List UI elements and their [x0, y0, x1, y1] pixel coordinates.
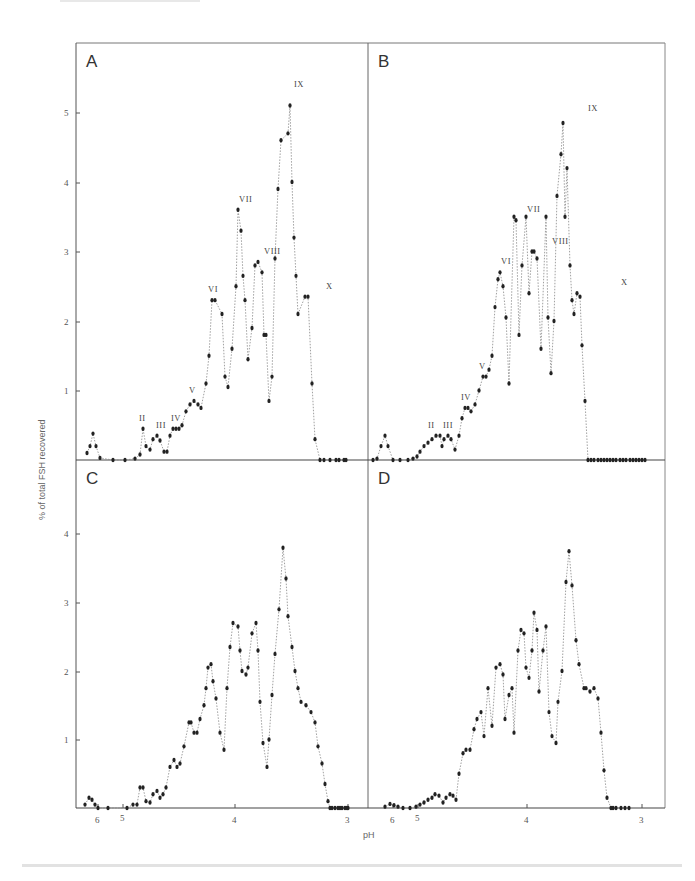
data-point	[507, 381, 510, 385]
peak-label: X	[621, 277, 628, 287]
peak-label: VIII	[264, 246, 281, 256]
data-point	[498, 270, 501, 274]
data-point	[514, 218, 517, 222]
caption-remnant	[22, 864, 682, 867]
data-point	[422, 444, 425, 448]
data-point	[430, 796, 433, 800]
series-panel-a	[85, 103, 347, 462]
data-point	[168, 433, 171, 437]
x-axis: 6 5 4 3 6 5 4 3	[95, 804, 644, 825]
data-point	[244, 672, 247, 676]
peak-label: IV	[171, 413, 181, 423]
data-point	[434, 433, 437, 437]
data-point	[392, 803, 395, 807]
data-point	[220, 312, 223, 316]
data-point	[383, 804, 386, 808]
data-point	[91, 431, 94, 435]
data-point	[340, 806, 343, 810]
data-point	[371, 458, 374, 462]
data-point	[131, 802, 134, 806]
data-point	[204, 381, 207, 385]
data-point	[564, 580, 567, 584]
data-point	[490, 354, 493, 358]
panel-label-b: B	[378, 52, 389, 71]
data-point	[449, 437, 452, 441]
data-point	[238, 648, 241, 652]
x-tick-6: 6	[390, 815, 395, 825]
data-point	[313, 720, 316, 724]
data-point	[328, 458, 331, 462]
data-point	[292, 235, 295, 239]
data-point	[510, 686, 513, 690]
data-point	[276, 187, 279, 191]
data-point	[544, 624, 547, 628]
data-point	[85, 451, 88, 455]
panel-label-a: A	[86, 52, 98, 71]
data-point	[151, 437, 154, 441]
data-point	[310, 381, 313, 385]
data-point	[559, 152, 562, 156]
data-point	[182, 744, 185, 748]
data-point	[640, 458, 643, 462]
data-point	[481, 374, 484, 378]
data-point	[418, 802, 421, 806]
data-point	[293, 669, 296, 673]
data-point	[192, 399, 195, 403]
peak-label: V	[189, 385, 196, 395]
data-point	[527, 676, 530, 680]
data-point	[264, 333, 267, 337]
data-point	[637, 458, 640, 462]
data-point	[605, 458, 608, 462]
data-point	[532, 249, 535, 253]
data-point	[209, 662, 212, 666]
data-point	[239, 228, 242, 232]
data-point	[592, 686, 595, 690]
data-point	[486, 686, 489, 690]
data-point	[172, 758, 175, 762]
peak-label: III	[156, 420, 166, 430]
data-point	[334, 458, 337, 462]
data-point	[180, 423, 183, 427]
data-point	[461, 751, 464, 755]
data-point	[599, 730, 602, 734]
data-point	[631, 458, 634, 462]
data-point	[493, 305, 496, 309]
y-tick-3: 3	[64, 598, 69, 608]
data-point	[379, 444, 382, 448]
data-point	[589, 458, 592, 462]
data-point	[318, 458, 321, 462]
data-point	[588, 689, 591, 693]
peak-label: IV	[461, 392, 471, 402]
data-point	[572, 312, 575, 316]
data-point	[541, 648, 544, 652]
data-point	[532, 611, 535, 615]
data-point	[144, 444, 147, 448]
data-point	[460, 416, 463, 420]
data-point	[575, 291, 578, 295]
data-point	[468, 748, 471, 752]
data-point	[214, 696, 217, 700]
data-point	[313, 437, 316, 441]
data-point	[539, 347, 542, 351]
data-point	[236, 208, 239, 212]
data-point	[196, 402, 199, 406]
data-point	[106, 806, 109, 810]
data-point	[286, 614, 289, 618]
data-point	[98, 456, 101, 460]
data-point	[475, 717, 478, 721]
y-tick-5: 5	[64, 108, 69, 118]
data-point	[530, 648, 533, 652]
data-point	[623, 806, 626, 810]
data-point	[346, 806, 349, 810]
data-point	[241, 274, 244, 278]
peak-label: II	[428, 420, 435, 430]
data-point	[96, 806, 99, 810]
data-point	[211, 679, 214, 683]
data-point	[442, 437, 445, 441]
data-point	[309, 710, 312, 714]
data-point	[524, 665, 527, 669]
data-point	[517, 333, 520, 337]
data-point	[267, 399, 270, 403]
data-point	[90, 798, 93, 802]
data-point	[88, 444, 91, 448]
